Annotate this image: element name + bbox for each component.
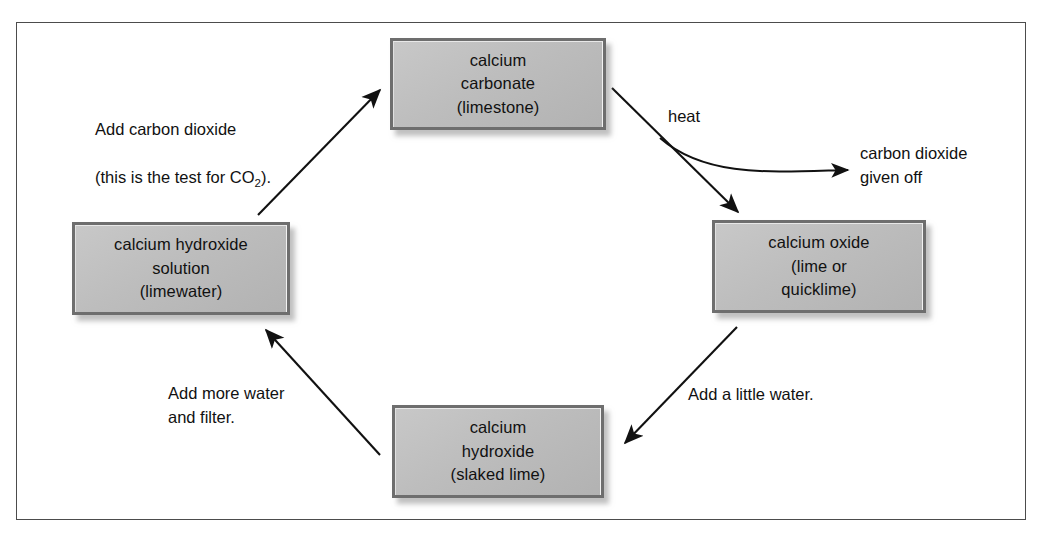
node-calcium-oxide-label: calcium oxide (lime or quicklime) <box>768 231 869 301</box>
node-calcium-hydroxide: calcium hydroxide (slaked lime) <box>392 405 604 498</box>
caption-carbon-dioxide-given-off: carbon dioxide given off <box>860 142 967 190</box>
caption-co2-test-text-a: (this is the test for CO <box>95 168 255 186</box>
caption-add-carbon-dioxide-line2: (this is the test for CO2). <box>95 166 271 192</box>
caption-add-more-water-and-filter: Add more water and filter. <box>168 382 284 430</box>
arrow-carbonate-to-carbon-dioxide <box>660 138 848 172</box>
node-calcium-oxide: calcium oxide (lime or quicklime) <box>712 220 926 313</box>
arrow-limewater-to-carbonate <box>258 90 380 215</box>
node-calcium-hydroxide-solution-label: calcium hydroxide solution (limewater) <box>114 233 248 303</box>
node-calcium-hydroxide-solution: calcium hydroxide solution (limewater) <box>72 222 290 315</box>
caption-co2-test-text-b: ). <box>261 168 271 186</box>
caption-add-carbon-dioxide-line1: Add carbon dioxide <box>95 118 271 142</box>
caption-add-carbon-dioxide: Add carbon dioxide (this is the test for… <box>95 94 271 216</box>
caption-add-a-little-water: Add a little water. <box>688 383 814 407</box>
diagram-page: calcium carbonate (limestone) calcium ox… <box>0 0 1041 545</box>
caption-heat: heat <box>668 105 700 129</box>
node-calcium-carbonate: calcium carbonate (limestone) <box>390 38 606 130</box>
node-calcium-hydroxide-label: calcium hydroxide (slaked lime) <box>451 416 546 486</box>
node-calcium-carbonate-label: calcium carbonate (limestone) <box>457 49 540 119</box>
